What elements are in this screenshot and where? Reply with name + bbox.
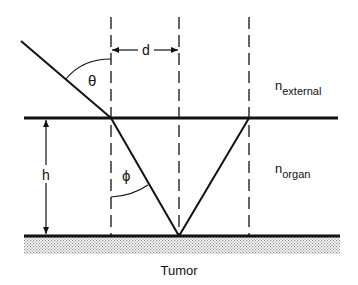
phi-arc [111, 185, 148, 197]
d-label: d [142, 42, 150, 58]
phi-label: ϕ [122, 167, 130, 184]
n-external-base: n [275, 78, 282, 93]
n-external-label: nexternal [275, 78, 321, 97]
h-label: h [42, 167, 50, 183]
refraction-diagram: θ ϕ d h nexternal norgan Tumor [0, 0, 358, 285]
reflected-ray [179, 118, 249, 236]
tumor-region [24, 237, 340, 254]
n-organ-label: norgan [275, 161, 310, 180]
theta-label: θ [88, 72, 96, 89]
n-external-sub: external [282, 85, 321, 97]
incident-ray [21, 41, 111, 118]
tumor-label: Tumor [160, 263, 198, 278]
n-organ-sub: organ [282, 168, 310, 180]
n-organ-base: n [275, 161, 282, 176]
